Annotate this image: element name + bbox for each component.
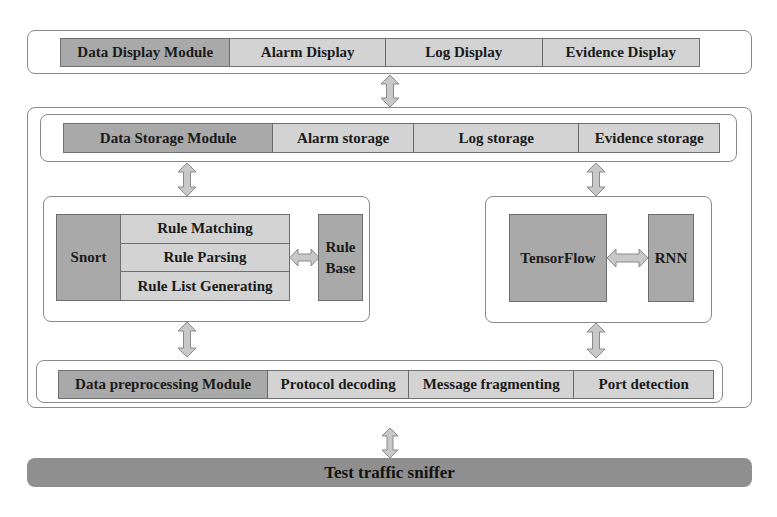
vertical-double-arrow-icon <box>382 428 398 458</box>
rule-list-generating: Rule List Generating <box>121 272 289 300</box>
port-detection: Port detection <box>574 371 713 398</box>
storage-module-bar: Data Storage Module Alarm storage Log st… <box>63 123 720 153</box>
vertical-double-arrow-icon <box>178 163 196 196</box>
log-display: Log Display <box>386 39 543 66</box>
storage-module-title: Data Storage Module <box>64 124 273 152</box>
protocol-decoding: Protocol decoding <box>268 371 409 398</box>
rule-matching: Rule Matching <box>121 215 289 244</box>
test-traffic-sniffer: Test traffic sniffer <box>27 458 752 487</box>
alarm-display: Alarm Display <box>230 39 386 66</box>
alarm-storage: Alarm storage <box>273 124 414 152</box>
rule-base-label: Rule Base <box>321 237 361 278</box>
vertical-double-arrow-icon <box>178 322 196 357</box>
horizontal-double-arrow-icon <box>290 249 319 266</box>
rule-parsing: Rule Parsing <box>121 244 289 273</box>
message-fragmenting: Message fragmenting <box>409 371 575 398</box>
display-module-title: Data Display Module <box>61 39 230 66</box>
snort-block: Snort <box>56 214 121 301</box>
tensorflow-block: TensorFlow <box>509 214 607 302</box>
horizontal-double-arrow-icon <box>607 249 648 267</box>
evidence-storage: Evidence storage <box>579 124 719 152</box>
rnn-block: RNN <box>648 214 694 302</box>
evidence-display: Evidence Display <box>543 39 700 66</box>
vertical-double-arrow-icon <box>587 323 605 358</box>
preprocessing-module-title: Data preprocessing Module <box>59 371 268 398</box>
preprocessing-module-bar: Data preprocessing Module Protocol decod… <box>58 370 714 399</box>
vertical-double-arrow-icon <box>587 163 605 196</box>
vertical-double-arrow-icon <box>381 75 399 107</box>
display-module-bar: Data Display Module Alarm Display Log Di… <box>60 38 700 67</box>
rule-base-block: Rule Base <box>318 214 363 301</box>
snort-functions-stack: Rule Matching Rule Parsing Rule List Gen… <box>120 214 290 301</box>
log-storage: Log storage <box>414 124 580 152</box>
